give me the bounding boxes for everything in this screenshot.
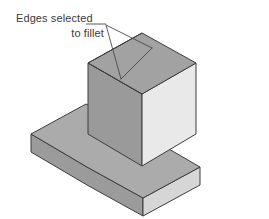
annotation-line-2: to fillet bbox=[71, 27, 104, 39]
isometric-model-drawing: Edges selected to fillet bbox=[0, 0, 269, 219]
annotation-line-1: Edges selected bbox=[16, 12, 93, 24]
cad-fillet-illustration: Edges selected to fillet bbox=[0, 0, 269, 219]
annotation-group: Edges selected to fillet bbox=[16, 12, 106, 39]
